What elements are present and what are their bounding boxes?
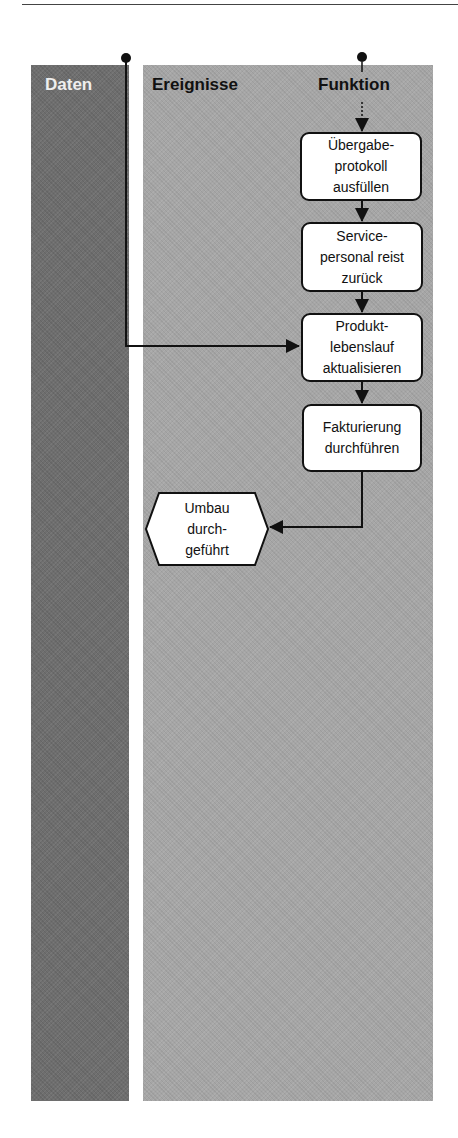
function-node-update-product-lifecycle[interactable]: Produkt- lebenslauf aktualisieren <box>301 313 423 382</box>
page-header-rule <box>22 4 458 5</box>
column-title-events: Ereignisse <box>152 75 238 95</box>
event-label: Umbau durch- geführt <box>145 492 269 566</box>
lane-data <box>31 65 129 1101</box>
function-node-handover-protocol[interactable]: Übergabe- protokoll ausfüllen <box>300 132 422 201</box>
function-node-service-staff-returns[interactable]: Service- personal reist zurück <box>301 222 423 292</box>
function-node-invoicing[interactable]: Fakturierung durchführen <box>302 404 422 472</box>
column-title-function: Funktion <box>318 75 390 95</box>
column-title-data: Daten <box>45 75 92 95</box>
event-node-conversion-done[interactable]: Umbau durch- geführt <box>145 492 269 566</box>
lane-events-functions <box>143 65 433 1101</box>
